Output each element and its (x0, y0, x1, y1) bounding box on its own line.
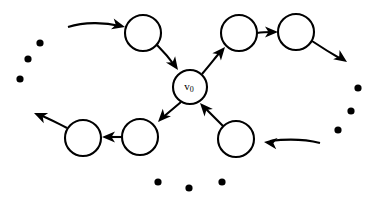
ellipsis-dots-right-dot (334, 126, 341, 133)
edge-incoming-into-top-left (68, 18, 126, 32)
ellipsis-dots-bottom-dot (185, 184, 192, 191)
ellipsis-dots-bottom (154, 178, 225, 191)
edge-bottom-left-outgoing (32, 108, 67, 128)
edge-top-left-to-v0 (157, 45, 183, 73)
edge-v0-to-bottom-middle-arrowhead-icon (154, 109, 171, 126)
edge-bottom-right-to-v0 (196, 99, 223, 126)
ellipsis-dots-right (334, 84, 361, 133)
node-bottom-middle-circle[interactable] (122, 119, 158, 155)
node-top-right[interactable] (278, 14, 314, 50)
edge-incoming-into-top-left-path (68, 23, 120, 27)
edge-bottom-left-outgoing-path (40, 115, 67, 128)
ellipsis-dots-left (16, 39, 43, 82)
edge-incoming-into-bottom-right (263, 136, 320, 149)
node-top-middle[interactable] (221, 15, 257, 51)
ellipsis-dots-bottom-dot (154, 178, 161, 185)
ellipsis-dots-left-dot (24, 55, 31, 62)
edge-top-middle-to-top-right (257, 26, 278, 37)
node-top-right-circle[interactable] (278, 14, 314, 50)
node-bottom-right[interactable] (218, 121, 254, 157)
edge-incoming-into-bottom-right-arrowhead-icon (263, 136, 277, 149)
ellipsis-dots-bottom-dot (218, 178, 225, 185)
edge-bottom-left-outgoing-arrowhead-icon (32, 108, 48, 123)
ellipsis-dots-right-dot (354, 84, 361, 91)
node-bottom-left-circle[interactable] (65, 120, 101, 156)
edge-v0-to-top-middle (202, 43, 229, 74)
edge-top-right-outgoing-path (312, 41, 341, 59)
diagram-canvas: v0 (0, 0, 380, 197)
edge-v0-to-top-middle-path (202, 51, 221, 74)
center-node-v0[interactable]: v0 (173, 70, 207, 104)
node-top-left-circle[interactable] (125, 15, 161, 51)
edge-bottom-middle-to-bottom-left (102, 131, 122, 142)
edge-v0-to-bottom-middle (154, 102, 181, 126)
ellipsis-dots-right-dot (347, 107, 354, 114)
graph-svg: v0 (0, 0, 380, 197)
ellipsis-dots-left-dot (36, 39, 43, 46)
node-top-left[interactable] (125, 15, 161, 51)
node-top-middle-circle[interactable] (221, 15, 257, 51)
edge-top-right-outgoing-arrowhead-icon (333, 50, 350, 67)
edge-incoming-into-bottom-right-path (270, 140, 320, 143)
ellipsis-dots-left-dot (16, 75, 23, 82)
nodes-layer: v0 (65, 14, 314, 157)
ellipsis-layer (16, 39, 361, 191)
node-bottom-right-circle[interactable] (218, 121, 254, 157)
edge-top-right-outgoing (312, 41, 350, 67)
node-bottom-middle[interactable] (122, 119, 158, 155)
node-bottom-left[interactable] (65, 120, 101, 156)
